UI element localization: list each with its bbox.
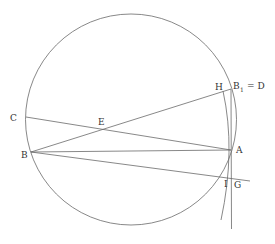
inner-arc xyxy=(221,91,229,220)
label-A: A xyxy=(235,145,243,155)
segment-BA xyxy=(31,150,231,152)
label-I: I xyxy=(224,179,228,189)
segment-BG xyxy=(31,152,250,181)
segment-BD xyxy=(31,89,231,152)
segment-CA xyxy=(26,117,231,150)
geometry-diagram: C B E A H B 1 = D I G xyxy=(0,0,275,244)
vertical-line-D xyxy=(231,89,232,229)
label-G: G xyxy=(234,180,241,190)
main-circle xyxy=(26,14,237,225)
label-B: B xyxy=(21,150,28,160)
label-H: H xyxy=(215,82,223,92)
label-C: C xyxy=(10,113,17,123)
label-equals-D: = D xyxy=(247,81,265,91)
label-E: E xyxy=(98,117,105,127)
label-B1: B xyxy=(233,81,240,91)
label-B1-subscript: 1 xyxy=(240,86,244,93)
